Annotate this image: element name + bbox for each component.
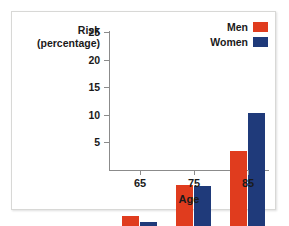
x-tick-label-65: 65 <box>120 177 160 189</box>
legend-label-women: Women <box>210 36 248 48</box>
bar-group-65 <box>122 88 160 226</box>
x-tick-label-75: 75 <box>174 177 214 189</box>
y-tick-label-10: 10 <box>54 109 100 121</box>
bar-group-85 <box>230 88 268 226</box>
y-tick-label-20: 20 <box>54 54 100 66</box>
x-tick-65 <box>140 170 141 175</box>
y-tick-label-25: 25 <box>54 26 100 38</box>
y-axis-line <box>109 31 110 171</box>
y-tick-label-5: 5 <box>54 136 100 148</box>
bar-women-65[interactable] <box>140 222 157 226</box>
y-tick-label-15: 15 <box>54 81 100 93</box>
legend-swatch-women <box>253 37 268 47</box>
x-tick-85 <box>248 170 249 175</box>
chart-legend: Men Women <box>196 20 268 50</box>
x-tick-label-85: 85 <box>228 177 268 189</box>
bar-men-75[interactable] <box>176 185 193 226</box>
y-axis-title-line-2: (percentage) <box>20 37 100 50</box>
y-tick-5 <box>104 142 110 143</box>
y-tick-15 <box>104 87 110 88</box>
bar-men-65[interactable] <box>122 216 139 226</box>
bar-women-85[interactable] <box>248 113 265 226</box>
x-tick-75 <box>194 170 195 175</box>
legend-label-men: Men <box>227 21 248 33</box>
y-tick-25 <box>104 32 110 33</box>
y-tick-10 <box>104 115 110 116</box>
x-axis-title: Age <box>149 193 229 205</box>
legend-item-women[interactable]: Women <box>196 35 268 48</box>
bar-women-75[interactable] <box>194 186 211 226</box>
chart-figure: Risk (percentage) 25 20 15 10 5 65 75 <box>0 0 289 226</box>
bar-group-75 <box>176 88 214 226</box>
y-tick-20 <box>104 60 110 61</box>
legend-swatch-men <box>253 22 268 32</box>
legend-item-men[interactable]: Men <box>196 20 268 33</box>
